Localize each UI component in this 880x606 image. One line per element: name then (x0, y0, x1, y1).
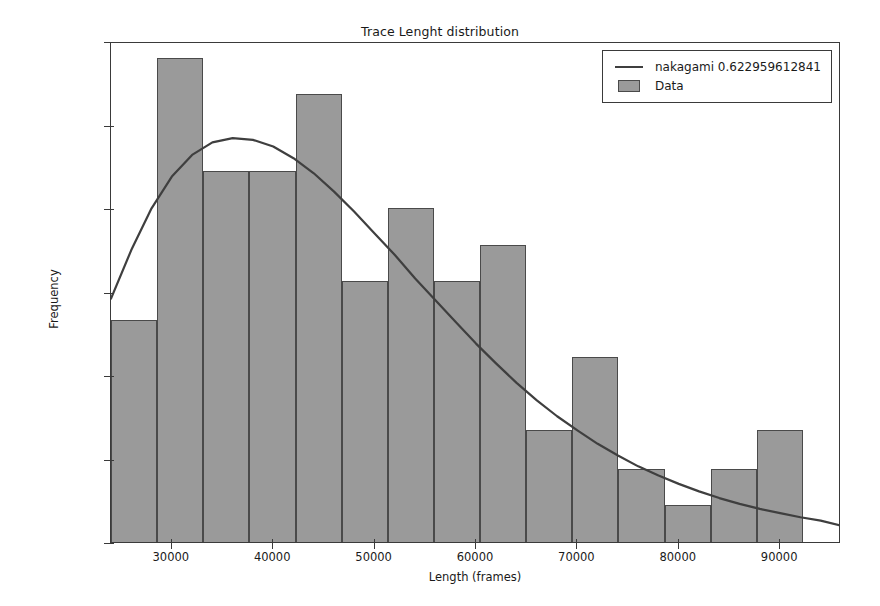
x-tick-mark (272, 543, 273, 549)
x-tick-mark-inner (171, 539, 172, 543)
x-tick-mark-inner (576, 539, 577, 543)
matplotlib-figure: Trace Lenght distribution 0.0000000.0000… (0, 0, 880, 606)
x-tick-mark (678, 543, 679, 549)
chart-title: Trace Lenght distribution (0, 24, 880, 39)
plot-area (110, 42, 840, 543)
y-tick-mark-inner (110, 543, 114, 544)
x-tick-mark (171, 543, 172, 549)
x-tick-mark (779, 543, 780, 549)
x-tick-mark-inner (374, 539, 375, 543)
chart-legend: nakagami 0.622959612841 Data (602, 50, 832, 103)
y-tick-mark-inner (110, 293, 114, 294)
y-tick-mark-inner (110, 460, 114, 461)
x-tick-label: 40000 (254, 550, 291, 564)
x-axis-label: Length (frames) (110, 570, 840, 584)
x-tick-mark (475, 543, 476, 549)
x-tick-mark (374, 543, 375, 549)
legend-line-key (611, 66, 647, 68)
x-tick-mark-inner (678, 539, 679, 543)
x-tick-label: 70000 (558, 550, 595, 564)
x-tick-label: 80000 (659, 550, 696, 564)
fit-curve-layer (111, 43, 839, 542)
legend-item-data: Data (611, 76, 823, 95)
nakagami-fit-curve (111, 43, 840, 543)
legend-item-fit: nakagami 0.622959612841 (611, 57, 823, 76)
x-tick-mark-inner (272, 539, 273, 543)
x-tick-mark-inner (475, 539, 476, 543)
legend-patch-key (611, 80, 647, 92)
x-tick-label: 50000 (355, 550, 392, 564)
legend-label-data: Data (647, 79, 684, 93)
x-tick-label: 90000 (761, 550, 798, 564)
x-tick-mark-inner (779, 539, 780, 543)
legend-label-fit: nakagami 0.622959612841 (647, 60, 821, 74)
y-axis-label: Frequency (47, 239, 61, 359)
x-tick-label: 30000 (153, 550, 190, 564)
y-tick-mark-inner (110, 126, 114, 127)
y-tick-mark-inner (110, 42, 114, 43)
y-tick-mark-inner (110, 209, 114, 210)
y-tick-mark-inner (110, 376, 114, 377)
x-tick-label: 60000 (457, 550, 494, 564)
x-tick-mark (576, 543, 577, 549)
